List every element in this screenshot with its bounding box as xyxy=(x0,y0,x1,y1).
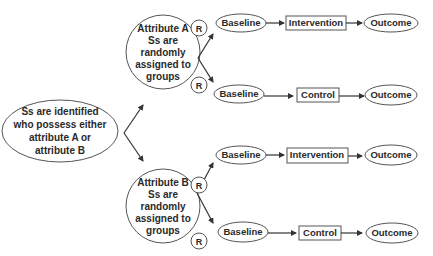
svg-text:R: R xyxy=(196,237,203,247)
group-b-line: assigned to xyxy=(135,213,191,224)
start-line: attribute B xyxy=(35,145,85,156)
randomization-marker: R xyxy=(191,177,207,193)
group-a-line: assigned to xyxy=(135,59,191,70)
group-b-node: Attribute B Ss are randomly assigned to … xyxy=(126,169,200,243)
arm-a-control: Baseline Control Outcome xyxy=(214,85,417,105)
intervention-node: Intervention xyxy=(289,17,344,28)
outcome-node: Outcome xyxy=(371,227,412,238)
group-a-line: groups xyxy=(146,71,180,82)
randomization-marker: R xyxy=(191,233,207,249)
group-a-branch-arrows xyxy=(198,34,213,82)
control-node: Control xyxy=(303,227,337,238)
svg-text:R: R xyxy=(196,181,203,191)
group-a-line: Attribute A xyxy=(137,23,188,34)
group-b-line: groups xyxy=(146,225,180,236)
start-line: who possess either xyxy=(13,119,107,130)
arm-b-control: Baseline Control Outcome xyxy=(218,222,418,243)
arm-b-intervention: Baseline Intervention Outcome xyxy=(216,145,417,165)
group-b-line: randomly xyxy=(140,201,185,212)
start-node: Ss are identified who possess either att… xyxy=(2,100,118,162)
baseline-node: Baseline xyxy=(219,88,258,99)
start-branch-arrows xyxy=(124,105,143,161)
start-line: attribute A or xyxy=(29,132,91,143)
baseline-node: Baseline xyxy=(223,226,262,237)
intervention-node: Intervention xyxy=(290,149,345,160)
group-a-node: Attribute A Ss are randomly assigned to … xyxy=(126,15,200,89)
baseline-node: Baseline xyxy=(221,149,260,160)
randomization-marker: R xyxy=(191,77,207,93)
svg-text:R: R xyxy=(196,81,203,91)
group-a-line: randomly xyxy=(140,47,185,58)
study-design-diagram: Ss are identified who possess either att… xyxy=(0,0,433,256)
svg-text:R: R xyxy=(196,24,203,34)
randomization-marker: R xyxy=(191,20,207,36)
outcome-node: Outcome xyxy=(370,89,411,100)
baseline-node: Baseline xyxy=(221,17,260,28)
group-b-line: Ss are xyxy=(148,189,178,200)
group-b-line: Attribute B xyxy=(137,177,189,188)
start-line: Ss are identified xyxy=(21,106,98,117)
group-a-line: Ss are xyxy=(148,35,178,46)
arm-a-intervention: Baseline Intervention Outcome xyxy=(216,14,418,32)
control-node: Control xyxy=(301,89,335,100)
outcome-node: Outcome xyxy=(370,149,411,160)
outcome-node: Outcome xyxy=(370,17,411,28)
